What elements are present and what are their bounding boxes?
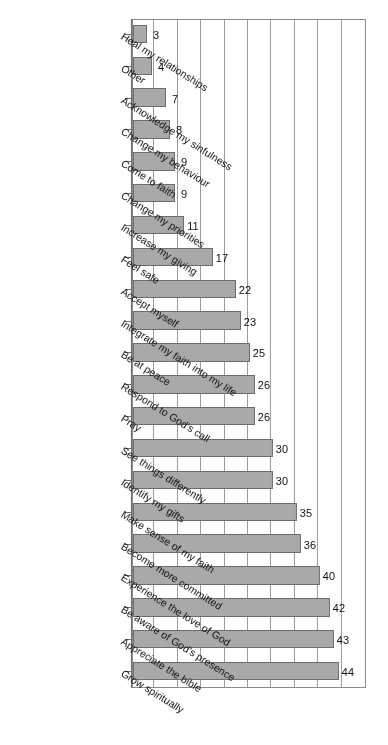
- value-label: 7: [167, 94, 183, 105]
- bar: [133, 280, 236, 298]
- value-label: 17: [214, 253, 230, 264]
- bar-row: [133, 439, 365, 457]
- value-label: 35: [298, 508, 314, 519]
- chart-rotation-wrapper: 444342403635303026262523221711998743 Gro…: [0, 0, 388, 745]
- value-label: 44: [340, 667, 356, 678]
- value-label: 36: [302, 540, 318, 551]
- value-label: 23: [242, 317, 258, 328]
- value-label: 26: [256, 412, 272, 423]
- value-label: 40: [321, 572, 337, 583]
- value-label: 43: [335, 635, 351, 646]
- value-label: 22: [237, 285, 253, 296]
- value-label: 3: [148, 30, 164, 41]
- value-label: 25: [251, 349, 267, 360]
- value-label: 42: [331, 603, 347, 614]
- bar-chart-figure: 444342403635303026262523221711998743 Gro…: [0, 0, 388, 745]
- value-label: 30: [274, 444, 290, 455]
- value-label: 26: [256, 380, 272, 391]
- bar-row: [133, 25, 365, 43]
- value-label: 30: [274, 476, 290, 487]
- value-label: 9: [176, 189, 192, 200]
